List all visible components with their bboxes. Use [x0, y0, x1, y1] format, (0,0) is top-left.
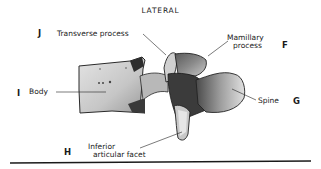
label-spine: Spine [258, 97, 279, 105]
letter-i: I [17, 88, 20, 98]
vertebral-body [79, 57, 145, 113]
letter-h: H [64, 147, 71, 157]
label-transverse-process: Transverse process [57, 30, 129, 38]
pedicle [140, 73, 168, 100]
letter-j: J [38, 28, 41, 38]
leader-inferior-articular-facet [140, 132, 182, 148]
spinous-process-shape [196, 73, 245, 113]
vertebra-illustration [0, 0, 321, 169]
leader-mamillary-process [208, 41, 228, 56]
label-body: Body [29, 88, 48, 96]
bottom-rule [10, 161, 311, 163]
letter-g: G [293, 96, 300, 106]
leader-transverse-process [143, 34, 166, 55]
label-inferior-articular-facet-line2: articular facet [93, 151, 146, 159]
mamillary-process-shape [175, 53, 206, 76]
label-mamillary-process-line2: process [233, 42, 262, 50]
letter-f: F [282, 40, 288, 50]
